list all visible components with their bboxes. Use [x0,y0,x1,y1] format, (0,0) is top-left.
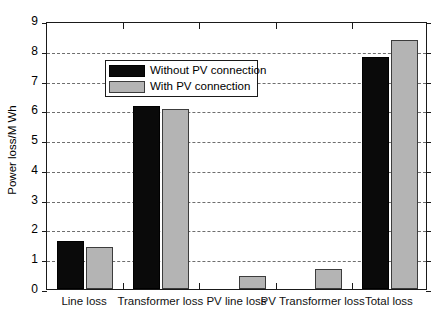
y-tick-label: 2 [18,222,38,236]
x-category-label: PV line loss [206,295,266,307]
y-tick-label: 4 [18,163,38,177]
x-tick-mark [276,23,277,29]
x-tick-mark [276,283,277,289]
legend-entry: With PV connection [109,79,254,94]
y-tick-mark [426,261,431,262]
y-tick-mark [42,53,47,54]
legend-swatch-with-pv [109,81,145,93]
x-category-label: Line loss [61,295,106,307]
bar-with-pv [391,40,418,289]
x-category-label: PV Transformer loss [261,295,365,307]
legend-label-without-pv: Without PV connection [150,64,266,77]
y-tick-mark [42,231,47,232]
x-tick-mark [199,23,200,29]
y-tick-mark [426,83,431,84]
y-tick-mark [426,112,431,113]
bar-with-pv [162,109,189,289]
gridline [47,53,426,54]
y-tick-label: 0 [18,282,38,296]
y-tick-mark [42,23,47,24]
y-tick-mark [426,53,431,54]
bar-without-pv [362,57,389,289]
y-tick-mark [42,142,47,143]
bar-with-pv [86,247,113,289]
y-tick-label: 8 [18,44,38,58]
y-tick-label: 7 [18,74,38,88]
chart-legend: Without PV connection With PV connection [105,60,258,97]
legend-entry: Without PV connection [109,63,254,78]
x-tick-mark [352,283,353,289]
y-tick-label: 9 [18,14,38,28]
bar-without-pv [133,106,160,289]
x-tick-mark [123,23,124,29]
y-tick-mark [42,83,47,84]
y-tick-label: 6 [18,103,38,117]
y-tick-mark [426,291,431,292]
y-tick-label: 3 [18,193,38,207]
x-tick-mark [123,283,124,289]
x-category-label: Transformer loss [117,295,203,307]
bar-chart-figure: Power loss/M Wh 0123456789 Without PV co… [0,0,444,325]
y-tick-mark [426,231,431,232]
bar-with-pv [239,276,266,289]
y-tick-mark [42,202,47,203]
y-tick-mark [426,142,431,143]
y-tick-mark [426,202,431,203]
x-tick-mark [199,283,200,289]
bar-with-pv [315,269,342,289]
y-tick-mark [42,112,47,113]
y-tick-mark [42,291,47,292]
y-tick-mark [426,23,431,24]
y-tick-label: 5 [18,133,38,147]
y-tick-mark [426,172,431,173]
y-tick-label: 1 [18,252,38,266]
plot-area: Without PV connection With PV connection [46,22,427,290]
y-tick-mark [42,172,47,173]
x-category-label: Total loss [365,295,413,307]
legend-swatch-without-pv [109,65,145,77]
y-tick-mark [42,261,47,262]
legend-label-with-pv: With PV connection [150,80,250,93]
bar-without-pv [57,241,84,289]
x-tick-mark [352,23,353,29]
